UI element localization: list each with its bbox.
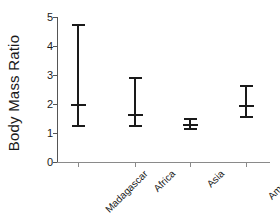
y-tick-label: 1	[47, 128, 53, 139]
error-bar-line	[134, 77, 136, 127]
error-bar-line	[245, 85, 247, 118]
y-tick-mark	[53, 162, 57, 163]
y-tick-label: 5	[47, 12, 53, 23]
chart-figure: Body Mass Ratio 012345 MadagascarAfricaA…	[0, 0, 280, 221]
error-bar-line	[77, 24, 79, 127]
y-tick-label: 3	[47, 70, 53, 81]
y-tick-label: 4	[47, 41, 53, 52]
error-bar-cap-lower	[72, 125, 85, 127]
y-tick-mark	[53, 104, 57, 105]
x-label-america: America	[266, 168, 280, 202]
mean-marker	[183, 124, 198, 126]
error-bar-cap-lower	[129, 125, 142, 127]
x-label-asia: Asia	[205, 168, 227, 190]
x-axis-line	[57, 162, 270, 163]
mean-marker	[71, 104, 86, 106]
x-tick-america	[246, 163, 247, 167]
error-bar-cap-upper	[240, 85, 253, 87]
plot-area: 012345	[57, 17, 270, 162]
error-bar-cap-upper	[129, 77, 142, 79]
mean-marker	[128, 114, 143, 116]
y-tick-mark	[53, 46, 57, 47]
x-tick-madagascar	[78, 163, 79, 167]
x-tick-asia	[190, 163, 191, 167]
y-tick-mark	[53, 133, 57, 134]
error-bar-cap-upper	[72, 24, 85, 26]
x-label-madagascar: Madagascar	[103, 168, 150, 215]
y-tick-mark	[53, 75, 57, 76]
y-tick-label: 2	[47, 99, 53, 110]
x-tick-africa	[135, 163, 136, 167]
mean-marker	[239, 105, 254, 107]
y-tick-label: 0	[47, 157, 53, 168]
error-bar-cap-lower	[184, 128, 197, 130]
x-label-africa: Africa	[151, 168, 177, 194]
error-bar-cap-lower	[240, 116, 253, 118]
y-axis-line	[57, 17, 58, 163]
y-tick-mark	[53, 17, 57, 18]
error-bar-cap-upper	[184, 118, 197, 120]
y-axis-title: Body Mass Ratio	[2, 8, 24, 178]
